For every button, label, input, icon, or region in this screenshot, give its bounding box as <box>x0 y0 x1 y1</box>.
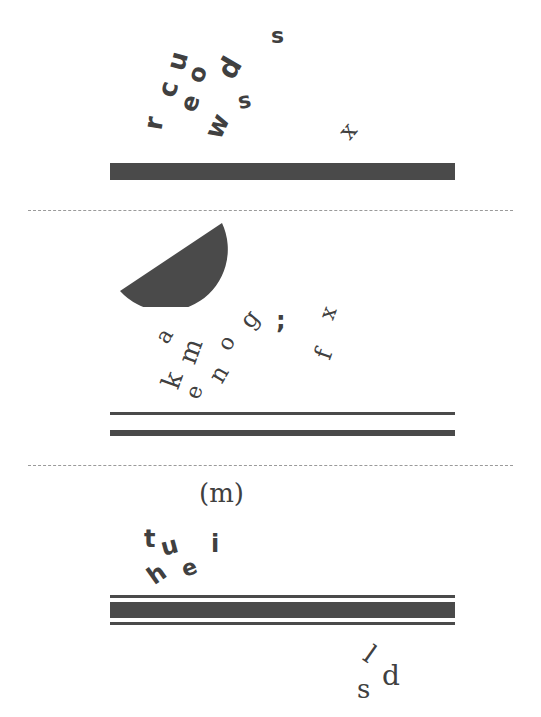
half-disc-shape <box>118 221 230 307</box>
scattered-glyph: e <box>182 382 207 402</box>
scattered-glyph: t <box>144 527 155 551</box>
scattered-glyph: d <box>213 52 247 83</box>
scattered-glyph: s <box>271 25 284 47</box>
scattered-glyph: o <box>214 332 240 354</box>
scattered-glyph: w <box>200 110 234 143</box>
scattered-glyph: x <box>334 118 361 144</box>
scattered-glyph: r <box>139 114 167 131</box>
horizontal-bar <box>110 430 455 436</box>
horizontal-bar <box>110 622 455 625</box>
scattered-glyph: e <box>176 91 204 115</box>
horizontal-bar <box>110 163 455 180</box>
scattered-glyph: (m) <box>199 480 244 506</box>
horizontal-bar <box>110 595 455 598</box>
scattered-glyph: g <box>236 305 264 332</box>
scattered-glyph: m <box>174 335 207 367</box>
scattered-glyph: h <box>143 559 171 588</box>
scattered-glyph: n <box>204 361 233 386</box>
scattered-glyph: i <box>211 532 219 556</box>
scattered-glyph: d <box>382 662 400 690</box>
horizontal-bar <box>110 602 455 618</box>
scattered-glyph: o <box>183 62 211 86</box>
scattered-glyph: s <box>236 89 253 113</box>
scattered-glyph: f <box>311 346 337 363</box>
scattered-glyph: u <box>158 532 181 560</box>
horizontal-bar <box>110 412 455 415</box>
dashed-divider <box>28 210 513 211</box>
scattered-glyph: e <box>179 555 201 581</box>
scattered-letters-page: rcueodwssxakmenog;xf(m)tuihesld <box>0 0 541 717</box>
scattered-glyph: x <box>316 303 341 322</box>
scattered-glyph: s <box>357 676 370 702</box>
dashed-divider <box>28 465 513 466</box>
scattered-glyph: l <box>359 641 381 667</box>
scattered-glyph: ; <box>276 309 286 333</box>
scattered-glyph: a <box>152 325 178 347</box>
